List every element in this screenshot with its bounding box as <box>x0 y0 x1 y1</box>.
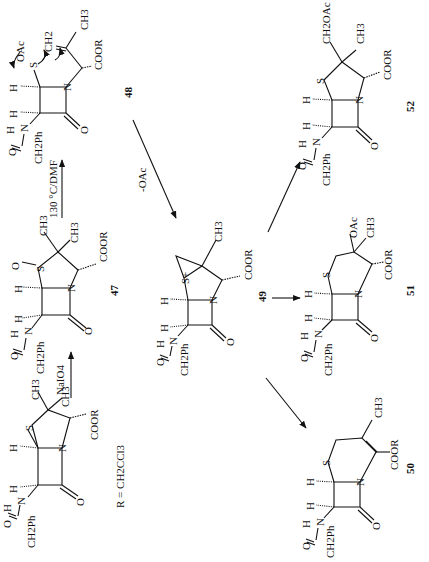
atom-n: N <box>352 290 364 298</box>
h-label: H <box>154 340 166 348</box>
reaction-scheme: S N O CH3 CH3 COOR H H H N O CH2Ph R = C… <box>0 0 429 562</box>
coor-label: COOR <box>97 231 109 262</box>
compound-number-47: 47 <box>108 285 120 297</box>
atom-n: N <box>314 518 326 526</box>
compound-start: S N O CH3 CH3 COOR H H H N O CH2Ph <box>1 379 100 548</box>
ch2ph-label: CH2Ph <box>32 131 44 164</box>
ch3-label: CH3 <box>212 221 224 242</box>
ch2ph-label: CH2Ph <box>320 153 332 186</box>
h-label: H <box>296 140 308 148</box>
atom-n: N <box>207 296 219 304</box>
h-label: H <box>7 84 19 92</box>
compound-number-52: 52 <box>404 101 416 113</box>
atom-s: S <box>27 62 39 68</box>
atom-o: O <box>296 162 308 170</box>
h-label: H <box>4 126 16 134</box>
ch3-label: CH3 <box>29 379 41 400</box>
footnote-r-definition: R = CH2CCl3 <box>114 444 126 508</box>
coor-label: COOR <box>381 49 393 80</box>
atom-o: O <box>370 522 382 530</box>
atom-n: N <box>65 284 77 292</box>
compound-52: S CH2OAc CH3 COOR N O H H H N O CH2Ph <box>296 2 393 186</box>
compound-50: S CH3 COOR N O H H H N O CH2Ph <box>300 397 400 558</box>
compound-number-51: 51 <box>404 285 416 296</box>
ch3-label: CH3 <box>372 397 384 418</box>
atom-n: N <box>56 444 68 452</box>
h-label: H <box>302 314 314 322</box>
reagent-oac: -OAc <box>136 167 148 192</box>
h-label: H <box>7 110 19 118</box>
atom-o: O <box>368 142 380 150</box>
atom-s: S <box>34 266 46 272</box>
coor-label: COOR <box>88 409 100 440</box>
compound-number-48: 48 <box>122 87 134 99</box>
atom-o: O <box>6 148 18 156</box>
h-label: H <box>300 520 312 528</box>
h-label: H <box>304 502 316 510</box>
atom-s: S <box>320 272 332 278</box>
atom-o: O <box>74 498 86 506</box>
compound-number-50: 50 <box>404 463 416 475</box>
coor-label: COOR <box>242 249 254 280</box>
atom-n: N <box>18 124 30 132</box>
ch2ph-label: CH2Ph <box>25 515 37 548</box>
atom-s: S <box>314 78 326 84</box>
arrow-to-50 <box>266 378 306 428</box>
ch2-label: CH2 <box>42 31 54 52</box>
h-label: H <box>300 122 312 130</box>
atom-n: N <box>15 497 27 505</box>
atom-s-plus: S+ <box>179 272 191 284</box>
reagent-heat-dmf: 130 °C/DMF <box>47 160 59 218</box>
atom-n: N <box>22 327 34 335</box>
atom-s: S <box>320 460 332 466</box>
compound-number-49: 49 <box>256 291 268 303</box>
ch3-label: CH3 <box>68 222 80 243</box>
ch3-label: CH3 <box>78 9 90 30</box>
h-label: H <box>12 315 24 323</box>
oac-label: OAc <box>347 217 359 238</box>
h-label: H <box>7 444 19 452</box>
h-label: H <box>1 504 13 512</box>
coor-label: COOR <box>382 249 394 280</box>
coor-label: COOR <box>92 39 104 70</box>
coor-label: COOR <box>388 439 400 470</box>
compound-48: S OAc CH2 CH3 COOR N O H H H N O CH2Ph <box>4 9 104 164</box>
atom-n: N <box>354 478 366 486</box>
atom-o: O <box>1 520 13 528</box>
atom-o: O <box>82 327 94 335</box>
h-label: H <box>300 96 312 104</box>
h-label: H <box>158 324 170 332</box>
atom-o: O <box>9 262 21 270</box>
ch2ph-label: CH2Ph <box>34 341 46 374</box>
h-label: H <box>12 285 24 293</box>
ch2ph-label: CH2Ph <box>322 343 334 376</box>
atom-o: O <box>224 338 236 346</box>
atom-o: O <box>368 334 380 342</box>
atom-n: N <box>312 330 324 338</box>
atom-s: S <box>23 425 35 431</box>
h-label: H <box>304 478 316 486</box>
ch2ph-label: CH2Ph <box>178 343 190 376</box>
atom-n: N <box>61 83 73 91</box>
h-label: H <box>298 332 310 340</box>
h-label: H <box>7 485 19 493</box>
oac-label: OAc <box>14 41 26 62</box>
ch2ph-label: CH2Ph <box>324 525 336 558</box>
atom-o: O <box>8 352 20 360</box>
atom-o: O <box>298 354 310 362</box>
atom-o: O <box>300 542 312 550</box>
h-label: H <box>8 330 20 338</box>
arrow-to-52 <box>268 162 300 232</box>
reagent-naio4: NaIO4 <box>54 365 66 395</box>
h-label: H <box>302 290 314 298</box>
ch3-label: CH3 <box>354 23 366 44</box>
atom-n: N <box>353 96 365 104</box>
h-label: H <box>158 297 170 305</box>
compound-49: S+ CH3 COOR N O H H H N O CH2Ph <box>154 221 254 376</box>
ch2oac-label: CH2OAc <box>320 2 332 44</box>
atom-o: O <box>78 126 90 134</box>
compound-51: S OAc CH3 COOR N O H H H N O CH2Ph <box>298 217 394 376</box>
ch3-label: CH3 <box>364 217 376 238</box>
compound-47: S O N O CH3 CH3 COOR H H H N O CH2Ph <box>8 215 109 374</box>
atom-o: O <box>154 358 166 366</box>
